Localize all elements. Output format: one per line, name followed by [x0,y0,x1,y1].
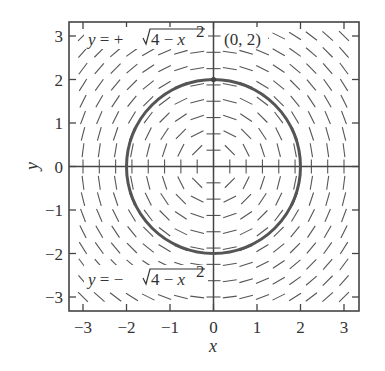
slope-segment [339,292,349,302]
slope-segment [96,226,103,238]
slope-segment [323,47,333,57]
slope-segment [126,48,137,56]
slope-segment [342,192,345,206]
slope-segment [323,259,332,270]
slope-segment [174,66,187,70]
slope-segment [223,296,237,298]
x-tick-label: 3 [340,318,349,337]
slope-segment [223,115,236,119]
slope-segment [289,48,300,56]
slope-segment [160,113,170,123]
slope-segment [223,213,236,217]
slope-segment [191,131,204,137]
svg-text:y = −: y = − [86,270,123,289]
slope-segment [81,127,84,141]
slope-segment [223,230,237,233]
slope-segment [339,47,348,58]
slope-segment [289,277,300,285]
point-label: (0, 2) [222,27,268,49]
slope-segment [276,193,282,206]
slope-segment [223,84,237,87]
slope-segment [143,244,154,253]
slope-segment [191,115,204,119]
slope-segment [78,292,88,302]
slope-segment [257,113,267,123]
slope-segment [98,143,100,157]
x-tick-label: −1 [161,318,179,337]
slope-segment [256,81,268,88]
slope-segment [223,263,237,265]
slope-segment [111,64,121,74]
slope-segment [190,67,204,69]
slope-segment [259,193,267,205]
slope-segment [306,48,317,57]
slope-segment [142,49,154,56]
y-tick-label: 1 [55,114,64,133]
slope-segment [340,259,348,270]
slope-segment [176,194,186,204]
slope-segment [309,192,313,205]
slope-segment [161,128,169,140]
y-tick-label: −1 [45,201,63,220]
slope-segment [239,279,252,283]
slope-segment [259,128,267,140]
slope-segment [142,294,155,300]
slope-segment [110,48,121,57]
upper-branch-label: y = + 4 − x 2 [84,22,208,49]
slope-segment [159,81,171,88]
slope-segment [327,143,329,157]
slope-segment [260,144,264,157]
slope-segment [273,277,285,284]
slope-segment [190,100,204,103]
slope-segment [243,177,249,190]
x-tick-label: −2 [117,318,135,337]
y-tick-labels: 3210−1−2−3 [45,27,63,307]
slope-segment [239,50,252,54]
slope-segment [174,295,188,298]
slope-segment [289,293,301,300]
slope-segment [307,80,316,91]
slope-segment [276,128,282,141]
slope-segment [240,229,253,235]
point-0-2 [211,77,216,82]
slope-segment [190,247,204,250]
slope-segment [158,50,171,56]
slope-segment [162,176,166,189]
slope-segment [97,127,101,140]
slope-segment [111,80,120,91]
slope-segment [327,176,329,190]
slope-segment [324,242,332,253]
slope-segment [290,64,301,73]
slope-segment [241,194,251,204]
slope-segment [291,226,300,237]
slope-segment [147,143,150,157]
x-axis-label: x [208,336,217,356]
slope-field-plot: y = + 4 − x 2 (0, 2) y = − 4 − x 2 −3−2−… [0,0,385,371]
slope-segment [339,275,348,286]
slope-segment [326,127,330,140]
slope-segment [162,144,166,157]
slope-segment [308,209,314,222]
y-tick-label: 2 [55,71,64,90]
slope-segment [94,292,105,301]
slope-segment [342,209,347,222]
slope-segment [145,193,151,206]
slope-segment [256,261,269,267]
slope-segment [131,176,134,190]
slope-segment [82,176,84,190]
slope-segment [340,63,348,74]
lower-branch-label: y = − 4 − x 2 [84,262,208,289]
slope-segment [112,226,120,238]
slope-segment [290,243,300,253]
slope-segment [98,176,100,190]
slope-segment [128,112,135,124]
slope-segment [176,129,186,139]
slope-segment [81,209,86,222]
y-axis-label: y [22,162,42,172]
upper-prefix: = + [96,30,124,49]
slope-segment [294,176,297,190]
slope-segment [324,95,331,107]
slope-segment [272,33,285,39]
svg-text:(0, 2): (0, 2) [224,30,261,49]
slope-segment [243,144,249,157]
